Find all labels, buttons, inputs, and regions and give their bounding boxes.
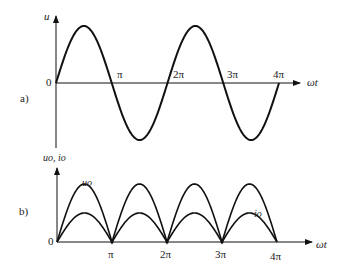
b-panel-label: b) xyxy=(19,205,28,217)
a-tick-4pi: 4π xyxy=(273,68,284,80)
b-io-label: io xyxy=(254,208,262,219)
b-uo-curve xyxy=(57,184,277,242)
a-tick-pi: π xyxy=(117,68,123,80)
a-tick-3pi: 3π xyxy=(227,68,238,80)
a-y-axis-label: u xyxy=(44,10,50,22)
b-uo-label: uo xyxy=(82,177,92,188)
a-origin-label: 0 xyxy=(46,76,52,88)
b-tick-4pi: 4π xyxy=(270,250,281,262)
a-panel-label: a) xyxy=(20,92,29,104)
b-origin-label: 0 xyxy=(48,235,54,247)
a-x-axis-label: ωt xyxy=(307,76,318,88)
b-tick-3pi: 3π xyxy=(215,248,226,260)
b-x-axis-label: ωt xyxy=(316,238,327,250)
b-tick-pi: π xyxy=(108,248,114,260)
a-tick-2pi: 2π xyxy=(173,68,184,80)
b-tick-2pi: 2π xyxy=(160,248,171,260)
b-io-curve xyxy=(57,213,277,242)
b-y-axis-label: uo, io xyxy=(43,152,66,163)
